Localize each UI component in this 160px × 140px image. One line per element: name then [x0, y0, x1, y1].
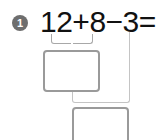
answer-box-final[interactable]: [72, 107, 129, 140]
problem-number-badge: 1: [12, 15, 28, 31]
answer-box-intermediate[interactable]: [43, 50, 100, 92]
